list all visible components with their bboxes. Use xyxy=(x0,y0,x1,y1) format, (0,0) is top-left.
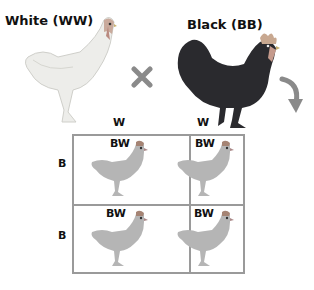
offspring-hen-1-1 xyxy=(90,140,150,200)
cross-x-icon xyxy=(131,66,153,88)
row-allele-1: B xyxy=(58,157,66,170)
column-allele-1: W xyxy=(113,116,125,129)
punnett-divider-horizontal xyxy=(72,204,245,206)
offspring-hen-1-2 xyxy=(176,140,236,200)
black-rooster-image xyxy=(172,28,280,130)
offspring-hen-2-2 xyxy=(176,210,236,270)
curved-arrow-down-icon xyxy=(278,75,308,115)
column-allele-2: W xyxy=(197,116,209,129)
white-hen-image xyxy=(18,12,118,127)
row-allele-2: B xyxy=(58,229,66,242)
offspring-hen-2-1 xyxy=(90,210,150,270)
